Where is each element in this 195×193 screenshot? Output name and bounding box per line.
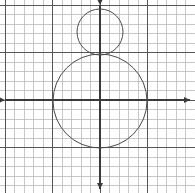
figure-canvas [0,0,195,193]
coordinate-grid-figure [0,0,195,193]
figure-background [0,0,195,193]
